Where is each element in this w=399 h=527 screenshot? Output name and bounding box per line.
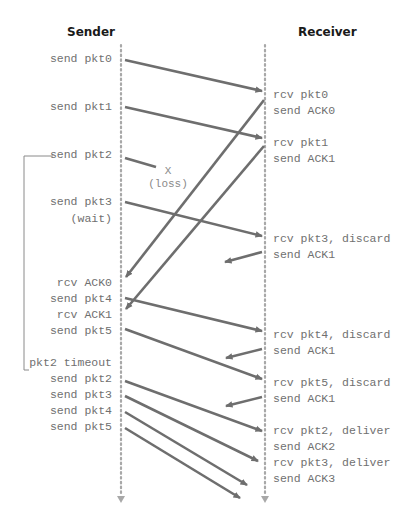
receiver-label: send ACK1 — [273, 344, 335, 357]
message-arrow-ack1-partial — [226, 397, 262, 406]
sender-label: send pkt5 — [50, 324, 112, 337]
sender-label: send pkt3 — [50, 195, 112, 208]
receiver-label: rcv pkt0 — [273, 88, 328, 101]
message-arrow-pkt0 — [125, 60, 262, 91]
receiver-header: Receiver — [298, 25, 357, 39]
sender-label: rcv ACK1 — [57, 308, 112, 321]
message-arrow-pkt5-retransmit — [125, 428, 240, 498]
receiver-label: send ACK0 — [273, 104, 335, 117]
messages — [125, 60, 264, 498]
receiver-label: send ACK3 — [273, 472, 335, 485]
receiver-label: send ACK1 — [273, 152, 335, 165]
sender-label: send pkt2 — [50, 372, 112, 385]
timeline-end-arrow-icon — [261, 496, 269, 503]
receiver-label: rcv pkt3, discard — [273, 232, 390, 245]
receiver-timeline — [261, 45, 269, 503]
loss-label: (loss) — [148, 178, 188, 190]
sender-labels: send pkt0 send pkt1 send pkt2 send pkt3 … — [29, 52, 112, 433]
timeline-end-arrow-icon — [117, 496, 125, 503]
loss-marker: X (loss) — [148, 165, 188, 190]
message-arrow-ack1-partial — [226, 349, 262, 358]
receiver-label: send ACK2 — [273, 440, 335, 453]
sender-label: rcv ACK0 — [57, 276, 112, 289]
sender-label: send pkt0 — [50, 52, 112, 65]
go-back-n-diagram: Sender Receiver send pkt0 send pkt1 send… — [0, 0, 399, 527]
message-arrow-pkt4-retransmit — [125, 412, 247, 485]
receiver-label: send ACK1 — [273, 392, 335, 405]
sender-label: send pkt1 — [50, 100, 112, 113]
receiver-label: rcv pkt5, discard — [273, 376, 390, 389]
sender-label: send pkt3 — [50, 388, 112, 401]
loss-x-icon: X — [165, 165, 172, 177]
sender-label: (wait) — [71, 212, 112, 225]
receiver-label: rcv pkt4, discard — [273, 328, 390, 341]
receiver-label: rcv pkt3, deliver — [273, 456, 390, 469]
message-arrow-ack0 — [126, 100, 264, 277]
sender-label: send pkt4 — [50, 404, 112, 417]
sender-label: send pkt2 — [50, 148, 112, 161]
message-arrow-pkt2-lost — [125, 158, 156, 167]
sender-timeline — [117, 45, 125, 503]
sender-label: pkt2 timeout — [29, 356, 112, 369]
sender-header: Sender — [67, 25, 115, 39]
message-arrow-pkt4 — [125, 298, 262, 331]
receiver-label: send ACK1 — [273, 248, 335, 261]
receiver-label: rcv pkt2, deliver — [273, 424, 390, 437]
timeout-bracket — [24, 156, 53, 370]
message-arrow-pkt1 — [125, 107, 262, 138]
message-arrow-ack1 — [126, 146, 264, 309]
receiver-labels: rcv pkt0 send ACK0 rcv pkt1 send ACK1 rc… — [273, 88, 390, 485]
receiver-label: rcv pkt1 — [273, 136, 328, 149]
sender-label: send pkt4 — [50, 292, 112, 305]
sender-label: send pkt5 — [50, 420, 112, 433]
message-arrow-ack1-partial — [225, 252, 262, 262]
